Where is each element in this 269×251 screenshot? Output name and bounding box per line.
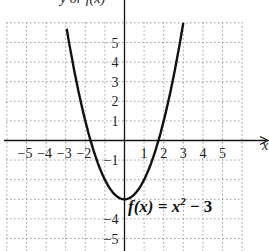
x-tick-label: 1 [141,146,148,161]
y-tick-label: 3 [112,75,119,90]
equation-rest: − 3 [186,197,213,216]
y-tick-label: 1 [112,114,119,129]
function-label: f(x) = x2 − 3 [128,195,212,216]
x-tick-label: −2 [76,146,91,161]
x-tick-label: 3 [180,146,187,161]
x-axis-title: x [261,138,269,153]
y-tick-label: −5 [104,232,119,247]
x-tick-label: −3 [57,146,72,161]
x-tick-label: −5 [18,146,33,161]
equation-main: f(x) = x [128,197,181,216]
x-tick-label: −4 [37,146,52,161]
y-tick-label: 2 [112,94,119,109]
y-tick-label: −4 [104,212,119,227]
y-tick-label: −1 [104,153,119,168]
y-axis-title: y or f(x) [58,0,105,7]
y-tick-label: 4 [112,55,119,70]
x-tick-label: 2 [160,146,167,161]
y-tick-label: 5 [112,36,119,51]
x-tick-label: 4 [199,146,206,161]
x-tick-label: 5 [219,146,226,161]
parabola-graph: −5−4−3−21234554321−1−4−5 y or f(x) x f(x… [0,0,269,251]
